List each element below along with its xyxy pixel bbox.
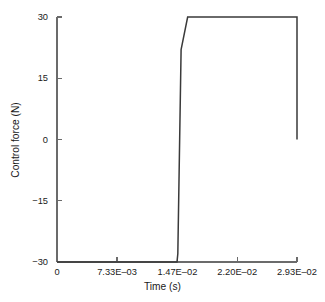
axis-lines — [57, 17, 297, 262]
x-tick-label-3: 2.20E–02 — [217, 267, 257, 277]
y-axis-ticks — [57, 17, 62, 262]
data-line-0 — [57, 17, 297, 262]
x-axis-label: Time (s) — [0, 281, 325, 292]
y-axis-label: Control force (N) — [10, 102, 21, 177]
plot-canvas — [0, 0, 325, 302]
data-series-group — [57, 17, 297, 262]
x-tick-label-0: 0 — [54, 267, 59, 277]
chart-figure: 07.33E–031.47E–022.20E–022.93E–02 30150−… — [0, 0, 325, 302]
x-tick-label-1: 7.33E–03 — [97, 267, 137, 277]
y-axis-label-container: Control force (N) — [4, 0, 26, 302]
x-tick-label-4: 2.93E–02 — [277, 267, 317, 277]
x-tick-label-2: 1.47E–02 — [158, 267, 198, 277]
